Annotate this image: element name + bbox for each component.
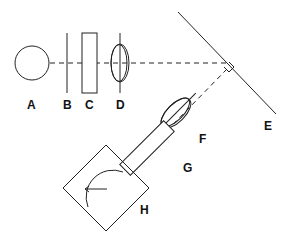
label-h: H [140, 203, 149, 217]
component-a-circle [15, 46, 49, 80]
optical-diagram: A B C D E F G H [0, 0, 294, 244]
label-d: D [116, 98, 125, 112]
label-g: G [183, 161, 192, 175]
component-e-mirror [178, 12, 276, 114]
label-b: B [63, 98, 72, 112]
label-e: E [264, 119, 272, 133]
label-a: A [27, 98, 36, 112]
component-c-rect [82, 33, 97, 93]
label-f: F [199, 132, 206, 146]
label-c: C [85, 98, 94, 112]
